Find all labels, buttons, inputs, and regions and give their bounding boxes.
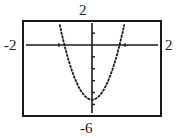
ymax-label: 2	[79, 3, 87, 18]
xmin-label: -2	[4, 38, 17, 53]
ymin-label: -6	[80, 121, 93, 136]
graph-canvas	[0, 0, 180, 138]
calculator-graph: 2 -6 -2 2	[0, 0, 180, 138]
xmax-label: 2	[165, 38, 173, 53]
